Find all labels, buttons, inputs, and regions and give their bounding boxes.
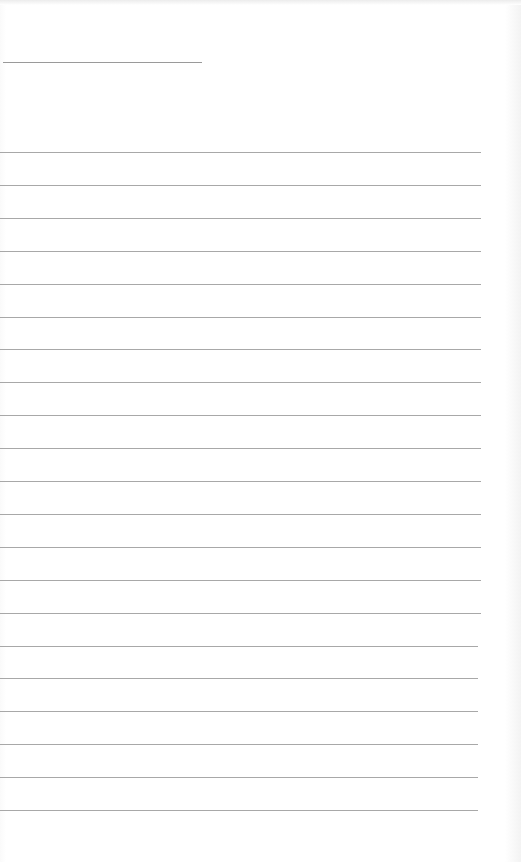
ruled-line (0, 744, 478, 745)
ruled-line (0, 580, 481, 581)
ruled-line (0, 481, 481, 482)
ruled-line (0, 711, 478, 712)
ruled-line (0, 218, 481, 219)
ruled-line (0, 547, 481, 548)
ruled-line (0, 317, 481, 318)
ruled-line (0, 382, 481, 383)
ruled-line (0, 777, 478, 778)
lined-paper-sheet (0, 0, 521, 862)
ruled-line (0, 251, 481, 252)
ruled-line (0, 349, 481, 350)
ruled-line (0, 448, 481, 449)
ruled-line (0, 415, 481, 416)
ruled-line (0, 613, 481, 614)
ruled-line (0, 514, 481, 515)
ruled-line (0, 284, 481, 285)
ruled-line (0, 646, 478, 647)
ruled-line (0, 678, 478, 679)
header-name-line (3, 62, 202, 63)
ruled-line (0, 810, 478, 811)
ruled-line (0, 152, 481, 153)
paper-top-edge (0, 0, 521, 5)
ruled-line (0, 185, 481, 186)
